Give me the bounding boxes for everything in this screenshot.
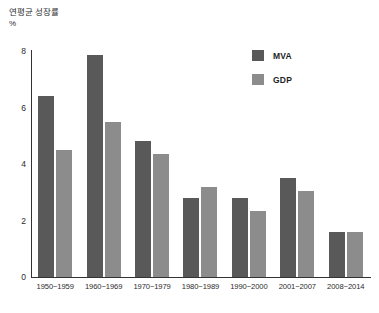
y-tick-label: 6 [21,103,26,113]
legend-item-mva: MVA [252,50,292,61]
x-tick-label: 1980~1989 [176,282,224,291]
bar-mva [280,178,296,277]
bar-group [31,51,79,277]
bar-mva [232,198,248,277]
y-tick-label: 4 [21,159,26,169]
x-tick-label: 1990~2000 [225,282,273,291]
y-axis-unit: % [9,19,59,29]
legend-label-mva: MVA [273,51,292,61]
bar-gdp [250,211,266,277]
y-axis-title-block: 연평균 성장률 % [9,7,59,29]
x-tick-label: 2008~2014 [322,282,370,291]
bar-mva [329,232,345,277]
x-axis-line [31,277,371,278]
bar-gdp [201,187,217,277]
bar-group [79,51,127,277]
bar-group [176,51,224,277]
bar-gdp [105,122,121,277]
chart-legend: MVA GDP [252,50,292,85]
bar-mva [38,96,54,277]
y-tick-label: 2 [21,216,26,226]
bar-gdp [56,150,72,277]
x-tick-label: 1970~1979 [128,282,176,291]
x-tick-label: 1950~1959 [31,282,79,291]
bar-mva [135,141,151,277]
legend-label-gdp: GDP [273,75,292,85]
bar-gdp [298,191,314,277]
legend-swatch-gdp-icon [252,74,264,85]
x-tick-label: 2001~2007 [273,282,321,291]
bar-gdp [347,232,363,277]
y-tick-label: 0 [21,272,26,282]
x-tick-label: 1960~1969 [79,282,127,291]
bar-mva [87,55,103,277]
bar-groups [31,51,370,277]
x-axis-tick-labels: 1950~19591960~19691970~19791980~19891990… [31,282,370,291]
bar-gdp [153,154,169,277]
legend-item-gdp: GDP [252,74,292,85]
y-tick-label: 8 [21,46,26,56]
bar-chart: 연평균 성장률 % 02468 1950~19591960~19691970~1… [0,0,379,313]
bar-group [128,51,176,277]
legend-swatch-mva-icon [252,50,264,61]
y-axis-title: 연평균 성장률 [9,7,59,18]
bar-mva [183,198,199,277]
bar-group [322,51,370,277]
